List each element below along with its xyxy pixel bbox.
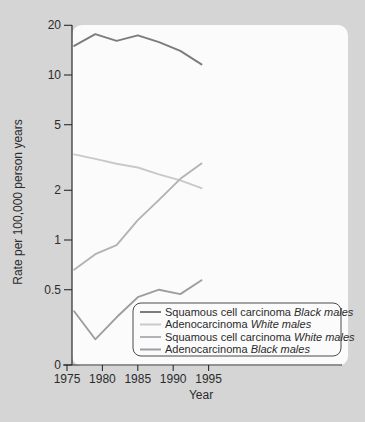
y-tick-label: 20 — [48, 18, 62, 32]
legend-label-squamous-black-males: Squamous cell carcinoma Black males — [165, 306, 354, 318]
legend-label-group: Black males — [294, 306, 354, 318]
legend-label-name: Squamous cell carcinoma — [165, 331, 292, 343]
x-tick-label: 1985 — [124, 372, 151, 386]
y-tick-label: 1 — [54, 233, 61, 247]
legend-label-group: Black males — [251, 343, 311, 355]
x-axis-title: Year — [189, 388, 213, 402]
legend-label-group: White males — [294, 331, 355, 343]
y-axis-title: Rate per 100,000 person years — [11, 119, 25, 284]
legend-label-name: Adenocarcinoma — [165, 318, 248, 330]
x-tick-label: 1975 — [54, 372, 81, 386]
y-tick-label: 0 — [54, 358, 61, 372]
x-tick-label: 1990 — [160, 372, 187, 386]
legend-label-group: White males — [251, 318, 312, 330]
y-tick-label: 5 — [54, 118, 61, 132]
x-tick-label: 1980 — [89, 372, 116, 386]
legend-label-name: Adenocarcinoma — [165, 343, 248, 355]
x-tick-label: 1995 — [195, 372, 222, 386]
rate-line-chart: 20105210.50 19751980198519901995 Year Ra… — [0, 0, 365, 422]
y-tick-label: 2 — [54, 183, 61, 197]
legend-label-adeno-black-males: Adenocarcinoma Black males — [165, 343, 310, 355]
legend-label-name: Squamous cell carcinoma — [165, 306, 292, 318]
legend-label-adeno-white-males: Adenocarcinoma White males — [165, 318, 312, 330]
legend-label-squamous-white-males: Squamous cell carcinoma White males — [165, 331, 355, 343]
y-tick-label: 10 — [48, 68, 62, 82]
legend: Squamous cell carcinoma Black males Aden… — [133, 303, 355, 356]
y-tick-label: 0.5 — [44, 283, 61, 297]
